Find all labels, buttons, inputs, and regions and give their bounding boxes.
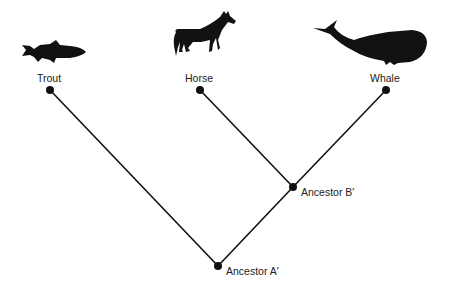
branch-horse-to-ancestor-b [200, 90, 293, 187]
taxon-label-horse: Horse [185, 72, 213, 84]
node-horse [196, 86, 204, 94]
node-ancestor-a [214, 262, 222, 270]
fish-icon [22, 40, 86, 63]
horse-icon [174, 11, 236, 56]
ancestor-b-label: Ancestor B′ [301, 186, 354, 198]
branch-trout-to-ancestor-a [50, 90, 218, 266]
ancestor-a-label: Ancestor A′ [226, 265, 279, 277]
whale-icon [313, 20, 427, 65]
cladogram-tree [0, 0, 450, 307]
node-trout [46, 86, 54, 94]
branch-ancestor-b-to-ancestor-a [218, 187, 293, 266]
node-whale [382, 86, 390, 94]
node-ancestor-b [289, 183, 297, 191]
taxon-label-whale: Whale [370, 72, 400, 84]
taxon-label-trout: Trout [37, 72, 61, 84]
branch-whale-to-ancestor-b [293, 90, 386, 187]
